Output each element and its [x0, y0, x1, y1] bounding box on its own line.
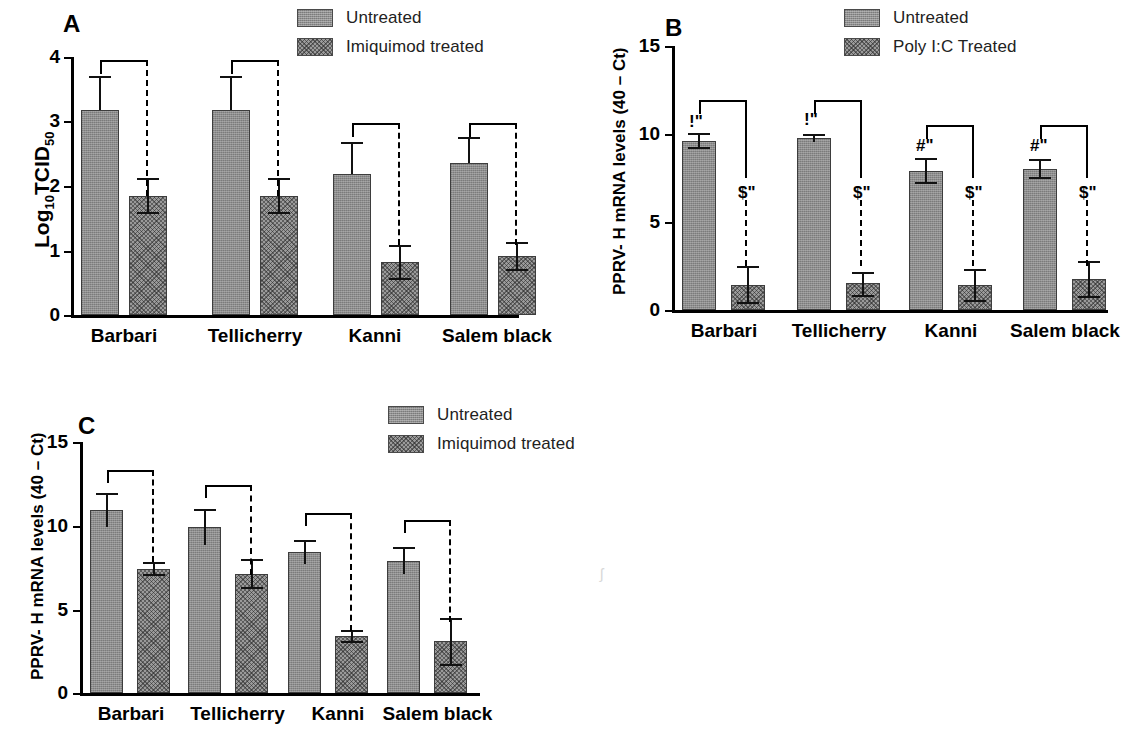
panel-a: A Untreated Imiquimod treated Log10TCID5…: [0, 0, 560, 366]
panel-c: C Untreated Imiquimod treated PPRV- H mR…: [0, 380, 600, 733]
panel-b-x-axis: [672, 310, 1108, 313]
panel-b-tick-5: [665, 222, 672, 224]
panel-a-tick-label-1: 1: [28, 240, 60, 262]
significance-label-untreated-salem-black: #": [1030, 136, 1048, 156]
errorbar-treated-salem-black: [434, 618, 467, 666]
errorbar-untreated-salem-black: [387, 547, 420, 574]
panel-c-ylabel: PPRV- H mRNA levels (40 – Ct): [28, 432, 48, 680]
errorbar-untreated-tellicherry: [797, 134, 831, 142]
bar-untreated-salem-black: [1023, 169, 1057, 310]
panel-a-category-barbari: Barbari: [64, 325, 184, 347]
panel-a-tick-0: [64, 315, 71, 317]
errorbar-untreated-tellicherry: [188, 509, 221, 545]
errorbar-untreated-kanni: [288, 540, 321, 564]
panel-b-category-salem-black: Salem black: [1000, 320, 1130, 342]
significance-label-untreated-barbari: !": [689, 112, 703, 132]
errorbar-treated-kanni: [958, 269, 992, 302]
panel-c-category-salem-black: Salem black: [375, 703, 500, 725]
panel-a-tick-label-3: 3: [28, 110, 60, 132]
panel-b-ylabel: PPRV- H mRNA levels (40 – Ct): [610, 47, 630, 295]
panel-c-tick-5: [73, 610, 80, 612]
bar-untreated-barbari: [81, 110, 119, 315]
panel-c-tick-label-0: 0: [30, 682, 68, 704]
panel-b-category-tellicherry: Tellicherry: [774, 320, 904, 342]
panel-b-tick-label-5: 5: [622, 211, 660, 233]
panel-c-tick-0: [73, 693, 80, 695]
scan-artifact: ʃ: [600, 565, 603, 582]
bar-untreated-tellicherry: [212, 110, 250, 315]
errorbar-treated-tellicherry: [846, 272, 880, 297]
bar-treated-kanni: [335, 636, 368, 693]
errorbar-untreated-barbari: [81, 76, 119, 110]
panel-b-tick-label-0: 0: [622, 299, 660, 321]
panel-c-tick-label-5: 5: [30, 599, 68, 621]
panel-b: B Untreated Poly I:C Treated PPRV- H mRN…: [572, 0, 1144, 366]
errorbar-treated-tellicherry: [260, 178, 298, 214]
panel-c-category-tellicherry: Tellicherry: [175, 703, 300, 725]
panel-c-tick-label-15: 15: [30, 431, 68, 453]
panel-a-category-tellicherry: Tellicherry: [190, 325, 320, 347]
errorbar-untreated-salem-black: [450, 137, 488, 163]
errorbar-treated-kanni: [335, 630, 368, 643]
errorbar-untreated-kanni: [909, 158, 943, 184]
panel-c-y-axis: [80, 442, 83, 695]
panel-a-tick-1: [64, 251, 71, 253]
bar-treated-barbari: [137, 569, 170, 693]
errorbar-untreated-tellicherry: [212, 76, 250, 110]
panel-a-tick-4: [64, 57, 71, 59]
bar-untreated-barbari: [682, 141, 716, 310]
panel-a-tick-label-0: 0: [28, 304, 60, 326]
errorbar-treated-barbari: [129, 178, 167, 214]
panel-c-tick-label-10: 10: [30, 515, 68, 537]
panel-a-plot: Log10TCID50 4 3 2 1 0: [0, 0, 560, 366]
panel-b-tick-0: [665, 310, 672, 312]
significance-label-untreated-kanni: #": [916, 136, 934, 156]
errorbar-untreated-kanni: [333, 142, 371, 174]
errorbar-treated-barbari: [137, 562, 170, 576]
panel-b-tick-10: [665, 134, 672, 136]
panel-c-category-barbari: Barbari: [76, 703, 186, 725]
bar-untreated-barbari: [90, 510, 123, 693]
panel-b-category-kanni: Kanni: [896, 320, 1006, 342]
errorbar-untreated-salem-black: [1023, 159, 1057, 179]
panel-a-tick-label-2: 2: [28, 175, 60, 197]
panel-b-tick-15: [665, 46, 672, 48]
errorbar-treated-barbari: [731, 266, 765, 304]
panel-a-tick-3: [64, 121, 71, 123]
panel-c-category-kanni: Kanni: [288, 703, 388, 725]
panel-b-plot: PPRV- H mRNA levels (40 – Ct) 15 10 5 0 …: [572, 0, 1144, 366]
panel-a-tick-2: [64, 186, 71, 188]
bar-treated-tellicherry: [235, 574, 268, 693]
errorbar-treated-kanni: [381, 245, 419, 280]
bar-untreated-kanni: [333, 174, 371, 315]
panel-a-category-salem-black: Salem black: [432, 325, 562, 347]
panel-b-tick-label-10: 10: [622, 123, 660, 145]
panel-a-x-axis: [71, 315, 519, 318]
panel-b-tick-label-15: 15: [622, 35, 660, 57]
panel-c-plot: PPRV- H mRNA levels (40 – Ct) 15 10 5 0: [0, 380, 600, 733]
errorbar-treated-salem-black: [1072, 261, 1106, 298]
bar-untreated-tellicherry: [188, 527, 221, 693]
panel-c-tick-10: [73, 526, 80, 528]
panel-b-y-axis: [672, 46, 675, 312]
errorbar-treated-salem-black: [498, 242, 536, 271]
errorbar-untreated-barbari: [682, 133, 716, 149]
bar-untreated-salem-black: [450, 163, 488, 315]
panel-b-category-barbari: Barbari: [664, 320, 784, 342]
bar-untreated-kanni: [288, 552, 321, 693]
panel-c-x-axis: [80, 693, 480, 696]
bar-untreated-salem-black: [387, 561, 420, 693]
bar-untreated-kanni: [909, 171, 943, 310]
panel-c-tick-15: [73, 442, 80, 444]
panel-a-y-axis: [71, 57, 74, 317]
errorbar-untreated-barbari: [90, 493, 123, 527]
bar-untreated-tellicherry: [797, 138, 831, 310]
panel-a-tick-label-4: 4: [28, 46, 60, 68]
panel-a-category-kanni: Kanni: [320, 325, 430, 347]
